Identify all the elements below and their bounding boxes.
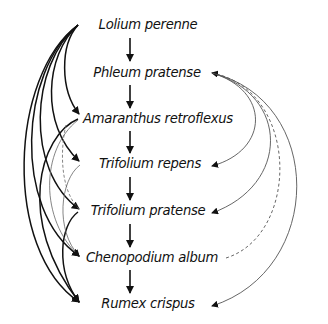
node-phleum-pratense: Phleum pratense <box>93 65 201 80</box>
edge-phleum-tprat <box>212 73 271 213</box>
node-trifolium-pratense: Trifolium pratense <box>91 203 206 218</box>
left-edges-thick <box>24 25 79 302</box>
node-rumex-crispus: Rumex crispus <box>101 296 195 311</box>
species-interaction-diagram: Lolium perenne Phleum pratense Amaranthu… <box>0 0 328 324</box>
edge-cheno-phleum-dashed <box>212 73 280 258</box>
edge-amaranthus-rumex <box>40 119 79 302</box>
edge-tprat-rumex <box>63 212 79 302</box>
edge-trep-cheno <box>63 165 80 256</box>
node-trifolium-repens: Trifolium repens <box>99 156 201 171</box>
node-chenopodium-album: Chenopodium album <box>86 250 218 265</box>
node-labels: Lolium perenne Phleum pratense Amaranthu… <box>82 17 233 311</box>
node-amaranthus-retroflexus: Amaranthus retroflexus <box>82 111 233 126</box>
edge-phleum-rumex <box>212 73 297 306</box>
right-edges <box>212 73 297 306</box>
node-lolium-perenne: Lolium perenne <box>99 17 198 32</box>
edge-lolium-trep <box>51 25 79 161</box>
